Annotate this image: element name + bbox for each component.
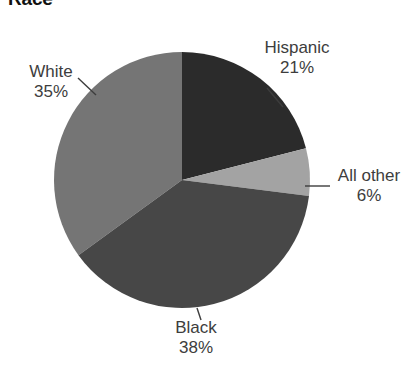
pie-label-hispanic-percent: 21% <box>249 58 345 78</box>
pie-label-black-percent: 38% <box>151 338 241 358</box>
pie-label-hispanic: Hispanic 21% <box>249 38 345 78</box>
pie-label-all-other-percent: 6% <box>330 186 408 206</box>
pie-label-hispanic-name: Hispanic <box>264 38 329 57</box>
pie-label-all-other-name: All other <box>338 166 400 185</box>
pie-label-all-other: All other 6% <box>330 166 408 206</box>
pie-label-black: Black 38% <box>151 318 241 358</box>
pie-label-white-percent: 35% <box>10 82 92 102</box>
pie-label-white: White 35% <box>10 62 92 102</box>
pie-label-black-name: Black <box>175 318 217 337</box>
pie-chart-figure: Race Hispanic 21% All other 6% Black 38%… <box>0 0 409 373</box>
pie-label-white-name: White <box>29 62 72 81</box>
